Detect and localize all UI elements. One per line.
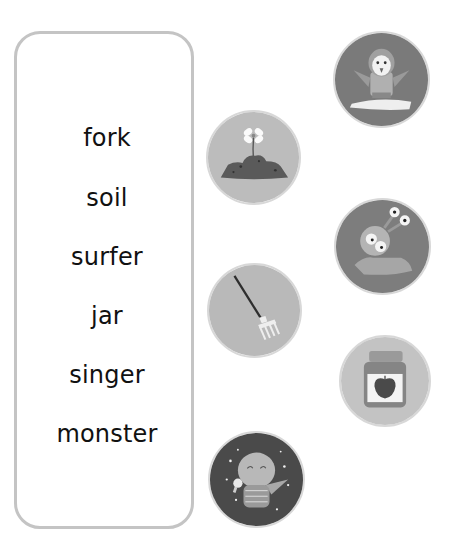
word-monster[interactable]: monster (17, 420, 197, 448)
monster-picture[interactable] (334, 198, 431, 295)
word-jar[interactable]: jar (17, 302, 197, 330)
fork-picture[interactable] (207, 263, 302, 358)
word-surfer[interactable]: surfer (17, 243, 197, 271)
monster-icon (336, 200, 429, 293)
soil-picture[interactable] (206, 110, 301, 205)
soil-flower-icon (208, 112, 299, 203)
jar-picture[interactable] (339, 335, 431, 427)
jam-jar-icon (341, 337, 429, 425)
word-list-box: fork soil surfer jar singer monster (14, 31, 194, 529)
garden-fork-icon (209, 265, 300, 356)
word-singer[interactable]: singer (17, 361, 197, 389)
surfer-bird-icon (335, 33, 428, 126)
surfer-picture[interactable] (333, 31, 430, 128)
singing-bird-icon (210, 433, 303, 526)
word-fork[interactable]: fork (17, 124, 197, 152)
word-soil[interactable]: soil (17, 184, 197, 212)
singer-picture[interactable] (208, 431, 305, 528)
